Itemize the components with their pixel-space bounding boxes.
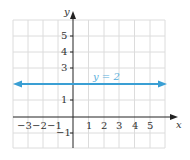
x-tick-label: −3 [17, 121, 32, 131]
line-y-equals-2 [13, 81, 167, 88]
x-tick-label: 2 [101, 121, 107, 131]
x-tick-label: 3 [116, 121, 122, 131]
x-tick-label: −2 [32, 121, 47, 131]
y-axis-arrow-icon [70, 11, 76, 19]
x-tick-label: 1 [86, 121, 92, 131]
line-right-arrow-icon [158, 81, 167, 88]
x-axis-label: x [176, 120, 182, 130]
x-tick-label: −1 [47, 121, 62, 131]
y-tick-label: 4 [61, 47, 67, 57]
line-left-arrow-icon [13, 81, 22, 88]
y-tick-label: 5 [61, 31, 67, 41]
x-tick-label: 4 [132, 121, 138, 131]
y-axis-label: y [64, 7, 70, 17]
y-tick-label: 3 [61, 63, 67, 73]
y-tick-label: 1 [61, 95, 67, 105]
line-annotation: y = 2 [93, 72, 120, 82]
x-tick-label: 5 [147, 121, 153, 131]
